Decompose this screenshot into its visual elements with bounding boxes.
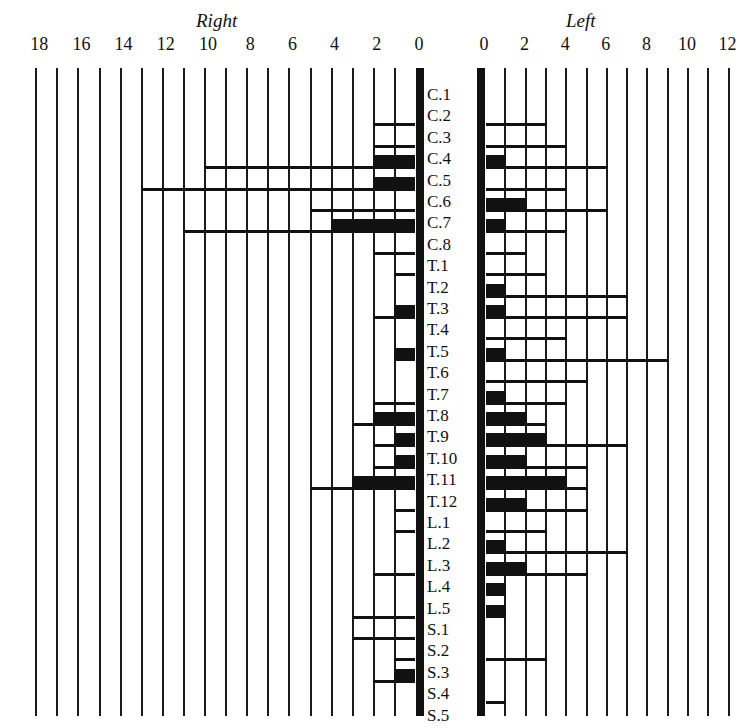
vertebra-label: S.4 <box>427 685 449 703</box>
right-axis-tick: 14 <box>115 34 133 55</box>
right-axis-tick: 4 <box>330 34 339 55</box>
left-filled-bar <box>486 540 506 553</box>
gridline <box>606 68 608 716</box>
vertebra-label: S.1 <box>427 621 449 639</box>
gridline <box>35 68 37 716</box>
right-filled-bar <box>352 476 415 489</box>
left-range-line <box>486 337 567 340</box>
left-range-line <box>486 295 628 298</box>
gridline <box>687 68 689 716</box>
left-range-line <box>486 701 506 704</box>
left-filled-bar <box>486 284 506 297</box>
gridline <box>331 68 333 716</box>
right-range-line <box>373 145 415 148</box>
left-filled-bar <box>486 198 527 211</box>
right-axis-tick: 16 <box>72 34 90 55</box>
gridline <box>646 68 648 716</box>
gridline <box>162 68 164 716</box>
vertebra-label: T.10 <box>427 450 457 468</box>
left-filled-bar <box>486 391 506 404</box>
vertebra-label: T.11 <box>427 471 457 489</box>
gridline <box>525 68 527 716</box>
left-axis-tick: 2 <box>520 34 529 55</box>
vertebral-distribution-chart: Right Left 181614121086420024681012 C.1C… <box>0 0 754 728</box>
right-filled-bar <box>394 669 415 682</box>
left-range-line <box>486 123 547 126</box>
left-range-line <box>486 530 547 533</box>
vertebra-label: T.9 <box>427 428 449 446</box>
gridline <box>288 68 290 716</box>
vertebra-label: C.1 <box>427 86 451 104</box>
vertebra-label: S.3 <box>427 664 449 682</box>
gridline <box>204 68 206 716</box>
vertebra-label: C.6 <box>427 193 451 211</box>
gridline <box>225 68 227 716</box>
vertebra-label: C.8 <box>427 236 451 254</box>
right-panel-title: Right <box>196 10 237 32</box>
left-axis-tick: 10 <box>678 34 696 55</box>
left-filled-bar <box>486 155 506 168</box>
gridline <box>141 68 143 716</box>
gridline <box>667 68 669 716</box>
gridline <box>728 68 730 716</box>
vertebra-label: S.5 <box>427 707 449 725</box>
right-range-line <box>310 209 416 212</box>
left-range-line <box>486 658 547 661</box>
left-axis-tick: 8 <box>642 34 651 55</box>
right-axis-tick: 10 <box>199 34 217 55</box>
gridline <box>56 68 58 716</box>
vertebra-label: T.5 <box>427 343 449 361</box>
right-range-line <box>394 658 415 661</box>
left-filled-bar <box>486 219 506 232</box>
left-filled-bar <box>486 305 506 318</box>
left-filled-bar <box>486 498 527 511</box>
vertebra-label: T.3 <box>427 300 449 318</box>
right-filled-bar <box>394 455 415 468</box>
vertebra-label: T.4 <box>427 321 449 339</box>
vertebra-label: T.6 <box>427 364 449 382</box>
vertebra-label: T.8 <box>427 407 449 425</box>
gridline <box>120 68 122 716</box>
right-filled-bar <box>331 219 415 232</box>
right-filled-bar <box>394 305 415 318</box>
left-filled-bar <box>486 412 527 425</box>
gridline <box>77 68 79 716</box>
vertebra-label: C.7 <box>427 214 451 232</box>
vertebra-label: C.5 <box>427 172 451 190</box>
left-filled-bar <box>486 455 527 468</box>
vertebra-label: T.12 <box>427 493 457 511</box>
left-range-line <box>486 273 547 276</box>
right-axis-tick: 0 <box>415 34 424 55</box>
left-range-line <box>486 316 628 319</box>
vertebra-label: L.4 <box>427 578 450 596</box>
right-axis-tick: 2 <box>372 34 381 55</box>
left-zero-axis <box>477 68 485 716</box>
gridline <box>183 68 185 716</box>
gridline <box>99 68 101 716</box>
left-axis-tick: 4 <box>561 34 570 55</box>
gridline <box>310 68 312 716</box>
right-axis-tick: 8 <box>246 34 255 55</box>
vertebra-label: T.7 <box>427 386 449 404</box>
right-range-line <box>394 509 415 512</box>
left-range-line <box>486 551 628 554</box>
vertebra-label: C.4 <box>427 150 451 168</box>
left-panel-title: Left <box>566 10 596 32</box>
right-filled-bar <box>373 155 415 168</box>
right-range-line <box>373 123 415 126</box>
vertebra-label: L.1 <box>427 514 450 532</box>
left-axis-tick: 12 <box>719 34 737 55</box>
left-range-line <box>486 359 669 362</box>
right-filled-bar <box>373 412 415 425</box>
vertebra-label: C.2 <box>427 107 451 125</box>
gridline <box>707 68 709 716</box>
left-filled-bar <box>486 605 506 618</box>
vertebra-label: L.2 <box>427 535 450 553</box>
right-range-line <box>352 616 415 619</box>
vertebra-label: T.2 <box>427 279 449 297</box>
left-axis-tick: 0 <box>480 34 489 55</box>
left-filled-bar <box>486 433 547 446</box>
vertebra-label: T.1 <box>427 257 449 275</box>
right-range-line <box>373 252 415 255</box>
left-range-line <box>486 188 567 191</box>
